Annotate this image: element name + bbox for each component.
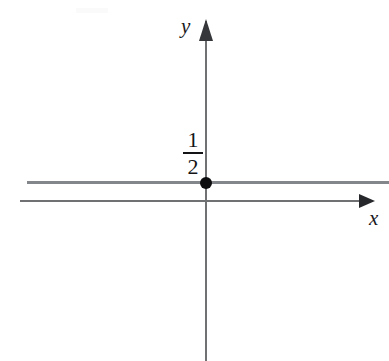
- y-axis-line: [205, 21, 207, 361]
- y-intercept-point-marker: [200, 177, 212, 189]
- function-graph-figure: y x 1 2: [0, 0, 389, 361]
- scan-artifact: [76, 8, 108, 13]
- y-intercept-fraction-label: 1 2: [183, 128, 203, 178]
- y-axis-label: y: [181, 16, 190, 37]
- y-axis-arrow-icon: [199, 19, 213, 41]
- x-axis-line: [20, 200, 370, 202]
- fraction-denominator: 2: [183, 155, 203, 178]
- x-axis-label: x: [369, 208, 378, 229]
- fraction-numerator: 1: [183, 128, 203, 151]
